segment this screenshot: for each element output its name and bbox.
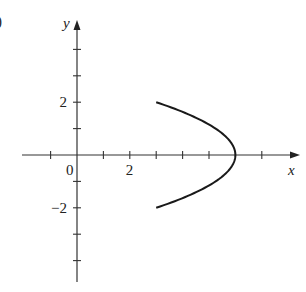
panel-label: ) (0, 13, 2, 30)
y-axis-label: y (61, 15, 70, 31)
y-tick-label: −2 (51, 200, 67, 216)
x-tick-label: 2 (126, 162, 134, 178)
x-tick-label: 0 (66, 162, 74, 178)
x-axis-arrow-icon (290, 152, 300, 159)
x-axis-label: x (287, 162, 295, 178)
y-axis-arrow-icon (74, 20, 81, 30)
chart-plot: ) 022−2 x y (0, 0, 306, 292)
axes (22, 20, 300, 282)
y-tick-label: 2 (60, 94, 68, 110)
